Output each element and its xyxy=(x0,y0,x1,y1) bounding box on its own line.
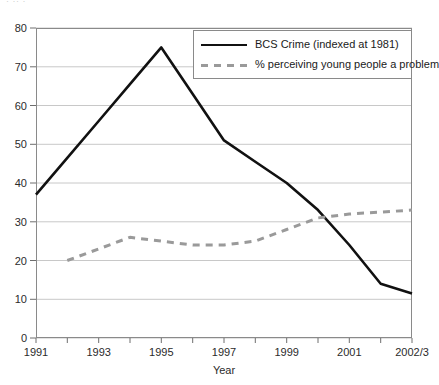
legend-item-bcs-crime: BCS Crime (indexed at 1981) xyxy=(201,36,403,53)
legend-swatch-solid-line-icon xyxy=(201,40,247,50)
x-tick-label-1993: 1993 xyxy=(86,347,110,358)
x-tick-label-1995: 1995 xyxy=(149,347,173,358)
legend-label-perceiving-young-people: % perceiving young people a problem xyxy=(255,59,439,70)
legend-label-bcs-crime: BCS Crime (indexed at 1981) xyxy=(255,39,399,50)
legend-item-perceiving-young-people: % perceiving young people a problem xyxy=(201,56,403,73)
chart-legend: BCS Crime (indexed at 1981) % perceiving… xyxy=(193,30,412,79)
series-line-bcs-crime xyxy=(36,47,412,293)
x-tick-label-2001: 2001 xyxy=(337,347,361,358)
legend-swatch-dashed-line-icon xyxy=(201,60,247,70)
x-tick-label-1991: 1991 xyxy=(24,347,48,358)
x-tick-label-2002-3: 2002/3 xyxy=(395,347,429,358)
series-line-perceiving-young-people xyxy=(67,210,412,260)
x-tick-label-1997: 1997 xyxy=(212,347,236,358)
x-axis-title: Year xyxy=(213,364,235,376)
x-tick-label-1999: 1999 xyxy=(274,347,298,358)
